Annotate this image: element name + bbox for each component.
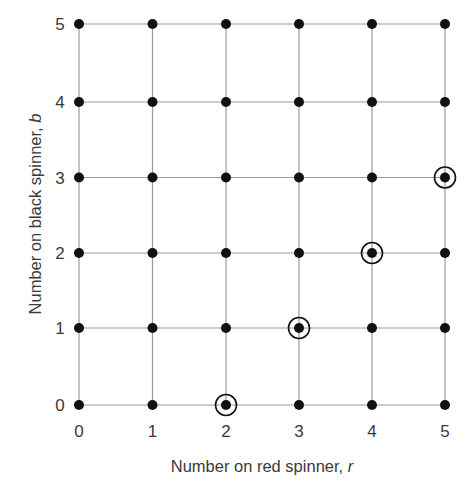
lattice-point bbox=[440, 173, 450, 183]
x-tick-label: 1 bbox=[148, 422, 157, 441]
highlight-rings bbox=[216, 167, 456, 416]
x-tick-label: 0 bbox=[74, 422, 83, 441]
lattice-point bbox=[367, 97, 377, 107]
lattice-point bbox=[367, 19, 377, 29]
lattice-point bbox=[221, 400, 231, 410]
lattice-point bbox=[367, 400, 377, 410]
lattice-point bbox=[367, 248, 377, 258]
lattice-point bbox=[148, 19, 158, 29]
lattice-point bbox=[148, 248, 158, 258]
grid-lines bbox=[79, 24, 445, 405]
y-tick-label: 0 bbox=[55, 396, 64, 415]
lattice-point bbox=[221, 97, 231, 107]
y-tick-label: 3 bbox=[55, 169, 64, 188]
lattice-point bbox=[221, 19, 231, 29]
lattice-point bbox=[148, 400, 158, 410]
y-tick-label: 5 bbox=[55, 15, 64, 34]
x-axis-label: Number on red spinner, r bbox=[171, 457, 355, 475]
lattice-point bbox=[440, 97, 450, 107]
x-tick-label: 5 bbox=[440, 422, 449, 441]
y-tick-label: 4 bbox=[55, 93, 64, 112]
lattice-point bbox=[367, 173, 377, 183]
lattice-point bbox=[294, 400, 304, 410]
lattice-point bbox=[440, 19, 450, 29]
lattice-point bbox=[74, 173, 84, 183]
lattice-point bbox=[221, 173, 231, 183]
lattice-chart: 012345 012345 Number on red spinner, r N… bbox=[0, 0, 471, 489]
x-tick-label: 3 bbox=[294, 422, 303, 441]
x-tick-labels: 012345 bbox=[74, 422, 449, 441]
lattice-point bbox=[440, 248, 450, 258]
lattice-point bbox=[148, 173, 158, 183]
lattice-points bbox=[74, 19, 450, 410]
lattice-point bbox=[440, 323, 450, 333]
lattice-point bbox=[74, 248, 84, 258]
lattice-point bbox=[74, 97, 84, 107]
lattice-point bbox=[294, 323, 304, 333]
lattice-point bbox=[74, 19, 84, 29]
x-tick-label: 4 bbox=[367, 422, 376, 441]
lattice-point bbox=[294, 19, 304, 29]
lattice-point bbox=[294, 173, 304, 183]
lattice-point bbox=[148, 97, 158, 107]
lattice-point bbox=[74, 323, 84, 333]
lattice-point bbox=[221, 248, 231, 258]
lattice-point bbox=[294, 97, 304, 107]
y-tick-labels: 012345 bbox=[55, 15, 64, 415]
lattice-point bbox=[221, 323, 231, 333]
x-tick-label: 2 bbox=[221, 422, 230, 441]
lattice-point bbox=[367, 323, 377, 333]
y-axis-label: Number on black spinner, b bbox=[26, 114, 44, 315]
lattice-point bbox=[294, 248, 304, 258]
lattice-point bbox=[74, 400, 84, 410]
y-tick-label: 1 bbox=[55, 319, 64, 338]
lattice-point bbox=[148, 323, 158, 333]
lattice-point bbox=[440, 400, 450, 410]
y-tick-label: 2 bbox=[55, 244, 64, 263]
